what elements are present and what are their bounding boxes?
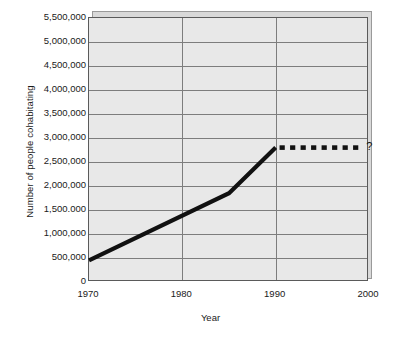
projected-dash-segment (280, 145, 285, 150)
plot-area: ? (88, 14, 372, 282)
x-axis-title: Year (0, 312, 399, 323)
projected-dash-segment (301, 145, 306, 150)
y-axis-tick-label: 0 (20, 276, 86, 286)
question-mark-annotation: ? (366, 141, 372, 152)
y-axis-tick-label: 3,500,000 (20, 108, 86, 118)
observed-line (89, 148, 276, 261)
y-axis-tick-label: 4,000,000 (20, 84, 86, 94)
y-axis-tick-label: 500,000 (20, 252, 86, 262)
data-series-layer (89, 18, 369, 282)
plot-frame: ? (88, 17, 368, 281)
y-axis-tick-label: 5,500,000 (20, 12, 86, 22)
y-axis-tick-label: 2,000,000 (20, 180, 86, 190)
projected-dash-segment (290, 145, 295, 150)
y-axis-tick-label: 1,500.000 (20, 204, 86, 214)
projected-dash-segment (332, 145, 337, 150)
y-axis-tick-label: 3,000,000 (20, 132, 86, 142)
x-axis-tick-label: 1970 (65, 288, 111, 299)
x-axis-title-text: Year (201, 312, 220, 323)
projected-dash-segment (311, 145, 316, 150)
y-axis-tick-label: 4,500,000 (20, 60, 86, 70)
x-axis-tick-label: 2000 (345, 288, 391, 299)
x-axis-tick-label: 1990 (252, 288, 298, 299)
y-axis-tick-label: 1,000,000 (20, 228, 86, 238)
projected-dashed-line (280, 145, 359, 150)
projected-dash-segment (322, 145, 327, 150)
y-axis-tick-label: 5,000,000 (20, 36, 86, 46)
projected-dash-segment (343, 145, 348, 150)
y-axis-tick-label: 2,500,000 (20, 156, 86, 166)
projected-dash-segment (353, 145, 358, 150)
x-axis-tick-labels: 1970198019902000 (0, 288, 399, 304)
chart-figure: Number of people cohabitating 5,500,0005… (0, 0, 399, 342)
x-axis-tick-label: 1980 (158, 288, 204, 299)
